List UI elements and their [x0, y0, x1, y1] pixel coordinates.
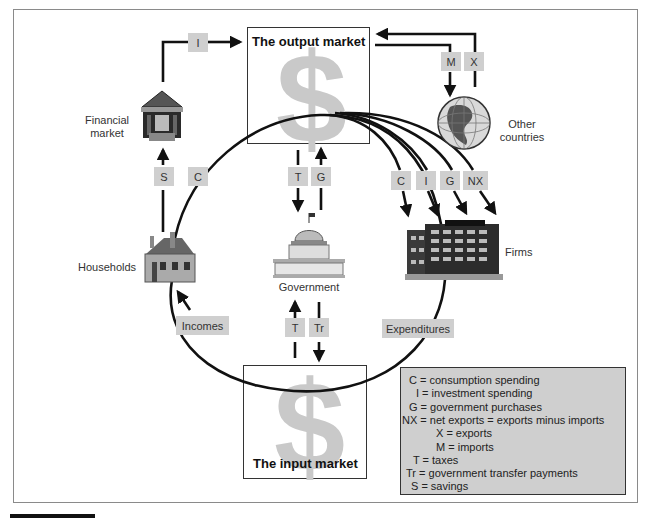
tag-expenditures: Expenditures [382, 319, 454, 338]
legend-item: NX = net exports = exports minus imports [402, 414, 604, 427]
globe-icon [436, 95, 492, 151]
other-countries-label: Other countries [496, 118, 548, 144]
tag-gov-purchases-upper: G [311, 167, 331, 186]
tag-exports: X [464, 52, 484, 71]
tag-incomes: Incomes [176, 316, 229, 335]
firms-label: Firms [505, 246, 533, 259]
tag-firms-government: G [440, 171, 460, 190]
house-icon [142, 232, 196, 286]
households-label: Households [78, 261, 136, 274]
bank-building-icon [139, 89, 185, 145]
tag-savings: S [154, 167, 174, 186]
tag-consumption-left: C [188, 167, 208, 186]
financial-market-label: Financial market [82, 114, 132, 140]
office-building-icon [405, 220, 503, 282]
legend-box: C = consumption spending I = investment … [400, 367, 626, 495]
legend-item: X = exports [436, 427, 492, 440]
legend-item: I = investment spending [416, 387, 533, 400]
tag-transfers-lower: Tr [309, 318, 329, 337]
legend-item: S = savings [411, 480, 468, 493]
output-market-label: The output market [252, 34, 365, 49]
legend-item: M = imports [436, 441, 494, 454]
government-label: Government [275, 281, 343, 294]
tag-imports: M [441, 52, 461, 71]
tag-firms-investment: I [416, 171, 436, 190]
tag-taxes-lower: T [285, 318, 305, 337]
tag-firms-net-exports: NX [463, 171, 488, 190]
tag-taxes-upper: T [288, 167, 308, 186]
legend-item: Tr = government transfer payments [406, 467, 578, 480]
tag-firms-consumption: C [391, 171, 411, 190]
capitol-icon [271, 213, 347, 279]
legend-item: T = taxes [413, 454, 458, 467]
legend-item: C = consumption spending [409, 374, 540, 387]
legend-item: G = government purchases [409, 401, 542, 414]
input-market-label: The input market [253, 456, 358, 471]
tag-investment: I [188, 33, 208, 52]
